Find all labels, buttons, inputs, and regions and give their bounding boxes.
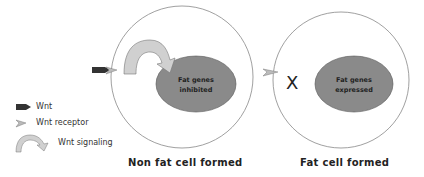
right-nucleus-label: Fat genes expressed	[326, 75, 382, 95]
legend-signaling-icon	[16, 135, 48, 152]
blocked-signal-mark: X	[286, 72, 298, 93]
left-nucleus-label: Fat genes inhibited	[168, 75, 224, 95]
legend-wnt-icon	[16, 104, 31, 110]
legend-receptor-icon	[16, 120, 26, 127]
right-cell-caption: Fat cell formed	[300, 157, 389, 168]
legend-receptor-label: Wnt receptor	[36, 118, 88, 127]
legend-signaling-label: Wnt signaling	[58, 138, 113, 147]
unbound-wnt-receptor-icon	[263, 69, 278, 76]
left-cell-caption: Non fat cell formed	[128, 157, 242, 168]
wnt-signaling-arrow-icon	[124, 40, 175, 74]
legend-wnt-label: Wnt	[36, 102, 52, 111]
